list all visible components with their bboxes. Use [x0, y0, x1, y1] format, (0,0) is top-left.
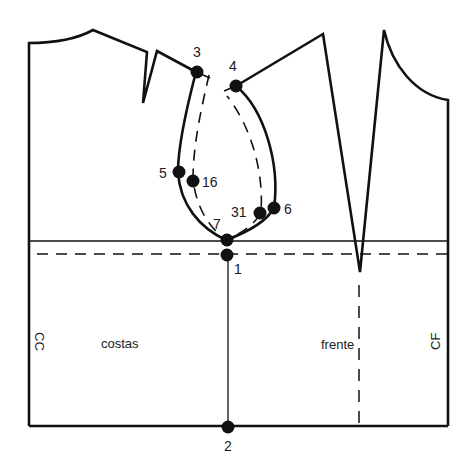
point-16-marker: [187, 175, 200, 188]
point-5-marker: [173, 166, 186, 179]
point-2: 2: [222, 421, 235, 455]
back-outline: [29, 30, 196, 426]
new-armhole-curve: [193, 75, 261, 240]
point-7-marker: [221, 234, 234, 247]
point-2-label: 2: [224, 438, 232, 454]
point-4-marker: [230, 80, 243, 93]
point-6: 6: [268, 201, 293, 217]
point-7-label: 7: [213, 216, 221, 232]
point-4: 4: [229, 58, 243, 93]
point-16: 16: [187, 174, 218, 190]
bodice-pattern-diagram: 3 4 5 16 31 6 7 1 2 costas frente CC CF: [0, 0, 476, 473]
point-6-marker: [268, 202, 281, 215]
point-4-label: 4: [229, 58, 237, 74]
front-outline: [236, 30, 448, 426]
point-6-label: 6: [284, 201, 292, 217]
point-3-marker: [191, 66, 204, 79]
point-16-label: 16: [202, 174, 218, 190]
point-1: 1: [221, 249, 243, 278]
center-back-label: CC: [32, 332, 47, 351]
point-2-marker: [222, 421, 235, 434]
point-5-label: 5: [159, 165, 167, 181]
point-5: 5: [159, 165, 186, 181]
point-3: 3: [191, 44, 204, 79]
point-7: 7: [213, 216, 234, 247]
point-1-marker: [221, 249, 234, 262]
center-front-label: CF: [428, 333, 443, 350]
point-1-label: 1: [234, 261, 242, 277]
point-31-marker: [254, 207, 267, 220]
back-piece-label: costas: [101, 336, 139, 351]
front-piece-label: frente: [321, 337, 354, 352]
point-3-label: 3: [193, 44, 201, 60]
point-31-label: 31: [231, 204, 247, 220]
